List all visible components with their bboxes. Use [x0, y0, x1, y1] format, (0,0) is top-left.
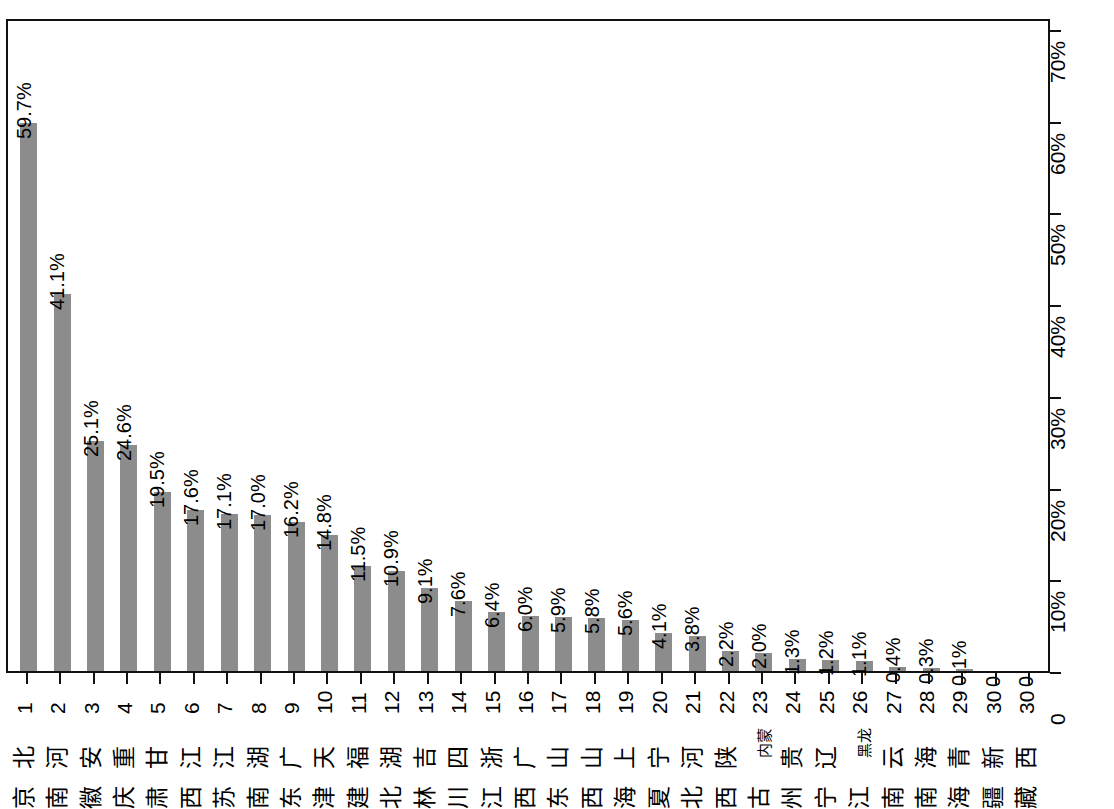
- category-label: 江: [840, 786, 874, 809]
- category-label: 海: [606, 786, 640, 809]
- category-tick: [93, 673, 95, 684]
- bar-value-label: 5.8%: [581, 588, 604, 634]
- bar: [187, 510, 204, 671]
- rank-label: 1: [13, 702, 37, 714]
- category-label: 京: [5, 786, 39, 809]
- category-label: 云: [874, 746, 908, 769]
- category-label: 藏: [1007, 786, 1041, 809]
- rank-label: 18: [581, 691, 605, 714]
- category-label: 黑龙: [853, 728, 874, 758]
- value-axis-label: 70%: [1046, 41, 1070, 83]
- category-label: 西: [172, 786, 206, 809]
- bar-value-label: 5.6%: [614, 590, 637, 636]
- bar-value-label: 9.1%: [414, 558, 437, 604]
- bar-value-label: 24.6%: [113, 405, 136, 462]
- category-tick: [59, 673, 61, 684]
- category-label: 北: [372, 786, 406, 809]
- value-axis-tick: [1050, 672, 1061, 674]
- bar: [54, 294, 71, 671]
- category-tick: [794, 673, 796, 684]
- rank-label: 3: [80, 702, 104, 714]
- category-label: 浙: [473, 746, 507, 769]
- bar-value-label: 6.4%: [481, 583, 504, 629]
- rank-label: 15: [481, 691, 505, 714]
- category-label: 庆: [105, 786, 139, 809]
- category-label: 山: [539, 746, 573, 769]
- category-label: 津: [305, 786, 339, 809]
- rank-label: 26: [848, 691, 872, 714]
- bar-value-label: 5.9%: [547, 587, 570, 633]
- category-label: 肃: [138, 786, 172, 809]
- value-axis-tick: [1050, 397, 1061, 399]
- category-label: 四: [439, 746, 473, 769]
- bar: [321, 535, 338, 671]
- bar-value-label: 1.1%: [848, 631, 871, 677]
- rank-label: 8: [247, 702, 271, 714]
- category-label: 东: [539, 786, 573, 809]
- category-tick: [226, 673, 228, 684]
- category-label: 新: [974, 746, 1008, 769]
- category-tick: [594, 673, 596, 684]
- bar-value-label: 1.3%: [781, 629, 804, 675]
- value-axis-tick: [1050, 580, 1061, 582]
- bar-value-label: 59.7%: [13, 83, 36, 140]
- category-tick: [527, 673, 529, 684]
- bar-value-label: 25.1%: [80, 400, 103, 457]
- bar: [87, 441, 104, 671]
- category-label: 江: [205, 746, 239, 769]
- category-label: 徽: [72, 786, 106, 809]
- category-label: 苏: [205, 786, 239, 809]
- rank-label: 2: [46, 702, 70, 714]
- category-label: 疆: [974, 786, 1008, 809]
- bar-value-label: 17.6%: [180, 469, 203, 526]
- rank-label: 13: [414, 691, 438, 714]
- category-label: 辽: [807, 746, 841, 769]
- category-label: 贵: [773, 746, 807, 769]
- rank-label: 28: [915, 691, 939, 714]
- category-label: 南: [38, 786, 72, 809]
- category-label: 南: [239, 786, 273, 809]
- category-tick: [1028, 673, 1030, 684]
- category-label: 北: [673, 786, 707, 809]
- value-axis-label: 40%: [1046, 316, 1070, 358]
- bar-value-label: 17.0%: [247, 474, 270, 531]
- category-label: 州: [773, 786, 807, 809]
- category-label: 古: [740, 786, 774, 809]
- value-axis-tick: [1050, 489, 1061, 491]
- value-axis-label: 20%: [1046, 500, 1070, 542]
- category-tick: [995, 673, 997, 684]
- category-tick: [861, 673, 863, 684]
- value-axis-tick: [1050, 213, 1061, 215]
- category-label: 南: [874, 786, 908, 809]
- rank-label: 9: [280, 702, 304, 714]
- bar-value-label: 6.0%: [514, 586, 537, 632]
- bar: [288, 522, 305, 671]
- bar-value-label: 14.8%: [313, 495, 336, 552]
- bar-value-label: 17.1%: [213, 473, 236, 530]
- bar-value-label: 11.5%: [347, 526, 370, 581]
- category-label: 广: [272, 746, 306, 769]
- category-label: 湖: [372, 746, 406, 769]
- category-label: 陕: [707, 746, 741, 769]
- category-tick: [728, 673, 730, 684]
- category-tick: [928, 673, 930, 684]
- rank-label: 22: [715, 691, 739, 714]
- value-axis-label: 30%: [1046, 408, 1070, 450]
- rank-label: 20: [648, 691, 672, 714]
- bar-value-label: 4.1%: [648, 604, 671, 650]
- category-tick: [126, 673, 128, 684]
- bar-value-label: 3.8%: [681, 607, 704, 653]
- category-tick: [460, 673, 462, 684]
- rank-label: 16: [514, 691, 538, 714]
- value-axis-tick: [1050, 122, 1061, 124]
- category-label: 南: [907, 786, 941, 809]
- bar-value-label: 2.2%: [715, 621, 738, 667]
- category-tick: [427, 673, 429, 684]
- category-tick: [761, 673, 763, 684]
- value-axis-tick: [1050, 30, 1061, 32]
- category-tick: [828, 673, 830, 684]
- rank-label: 10: [313, 691, 337, 714]
- category-label: 湖: [239, 746, 273, 769]
- category-label: 西: [506, 786, 540, 809]
- bar-value-label: 19.5%: [146, 451, 169, 508]
